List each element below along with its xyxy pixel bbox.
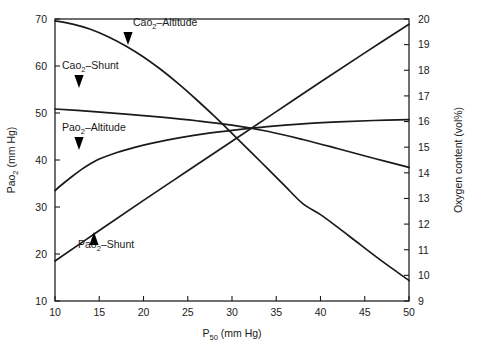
series-label-pao2-shunt: Pao2–Shunt: [78, 238, 134, 253]
series-pointer-cao2-altitude: [123, 32, 132, 45]
y-left-tick-label: 60: [35, 60, 47, 72]
chart-plot-svg: 1015202530354045501020304050607091011121…: [0, 0, 478, 349]
y-right-tick-label: 18: [418, 64, 430, 76]
x-tick-label: 30: [226, 306, 238, 318]
y-left-tick-label: 70: [35, 13, 47, 25]
x-tick-label: 20: [138, 306, 150, 318]
y-right-tick-label: 20: [418, 13, 430, 25]
series-pointer-cao2-shunt: [74, 75, 83, 88]
y-right-axis-title: Oxygen content (vol%): [452, 107, 464, 213]
y-right-tick-label: 17: [418, 90, 430, 102]
y-right-tick-label: 15: [418, 141, 430, 153]
y-right-tick-label: 14: [418, 167, 430, 179]
y-left-tick-label: 30: [35, 201, 47, 213]
y-right-tick-label: 9: [418, 295, 424, 307]
x-tick-label: 40: [315, 306, 327, 318]
y-right-tick-label: 12: [418, 218, 430, 230]
x-tick-label: 50: [403, 306, 415, 318]
y-left-tick-label: 10: [35, 295, 47, 307]
series-label-cao2-altitude: Cao2–Altitude: [133, 16, 198, 31]
y-right-tick-label: 10: [418, 269, 430, 281]
y-left-tick-label: 40: [35, 154, 47, 166]
series-pointer-pao2-altitude: [74, 137, 83, 150]
x-tick-label: 35: [270, 306, 282, 318]
y-right-tick-label: 13: [418, 192, 430, 204]
y-right-tick-label: 16: [418, 115, 430, 127]
x-tick-label: 45: [359, 306, 371, 318]
y-left-tick-label: 20: [35, 248, 47, 260]
series-curve-cao2-shunt: [55, 109, 409, 167]
y-left-axis-title: Pao2 (mm Hg): [5, 127, 20, 194]
x-tick-label: 25: [182, 306, 194, 318]
chart-figure: 1015202530354045501020304050607091011121…: [0, 0, 478, 349]
series-label-cao2-shunt: Cao2–Shunt: [62, 59, 119, 74]
y-right-tick-label: 11: [418, 244, 429, 256]
x-tick-label: 10: [49, 306, 61, 318]
x-axis-title: P50 (mm Hg): [202, 327, 261, 342]
y-left-tick-label: 50: [35, 107, 47, 119]
y-right-tick-label: 19: [418, 38, 430, 50]
series-label-pao2-altitude: Pao2–Altitude: [62, 121, 126, 136]
x-tick-label: 15: [93, 306, 105, 318]
